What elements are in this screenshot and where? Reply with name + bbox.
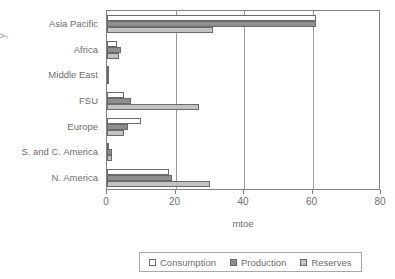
legend-item-consumption[interactable]: Consumption: [149, 257, 216, 268]
bar-group-n-america: [107, 169, 379, 187]
category-label-europe: Europe: [0, 120, 98, 131]
category-label-africa: Africa: [0, 43, 98, 54]
legend-label-reserves: Reserves: [311, 257, 351, 268]
category-label-asia-pacific: Asia Pacific: [0, 17, 98, 28]
x-tick-mark-20: [175, 190, 176, 194]
bar-s-and-c-america-reserves: [107, 155, 112, 161]
category-label-s-and-c-america: S. and C. America: [0, 146, 98, 157]
bar-group-africa: [107, 41, 379, 59]
bar-chart-figure: y Asia PacificAfricaMiddle EastFSUEurope…: [0, 0, 395, 279]
x-tick-mark-60: [312, 190, 313, 194]
bar-africa-reserves: [107, 53, 119, 59]
legend-swatch-production-icon: [230, 259, 237, 266]
bar-middle-east-reserves: [107, 78, 109, 84]
chart-legend: ConsumptionProductionReserves: [139, 252, 362, 272]
legend-label-consumption: Consumption: [160, 257, 216, 268]
x-tick-mark-80: [380, 190, 381, 194]
legend-item-reserves[interactable]: Reserves: [300, 257, 351, 268]
x-tick-mark-40: [243, 190, 244, 194]
bar-europe-reserves: [107, 130, 124, 136]
legend-swatch-reserves-icon: [300, 259, 307, 266]
x-tick-label-20: 20: [169, 196, 180, 207]
bar-group-europe: [107, 118, 379, 136]
legend-swatch-consumption-icon: [149, 259, 156, 266]
bar-fsu-reserves: [107, 104, 199, 110]
x-tick-label-40: 40: [237, 196, 248, 207]
category-axis: Asia PacificAfricaMiddle EastFSUEuropeS.…: [0, 10, 103, 190]
bar-group-fsu: [107, 92, 379, 110]
plot-area: [106, 10, 380, 190]
x-axis-title: mtoe: [106, 218, 380, 229]
x-tick-label-80: 80: [374, 196, 385, 207]
category-label-middle-east: Middle East: [0, 69, 98, 80]
legend-label-production: Production: [241, 257, 286, 268]
category-label-n-america: N. America: [0, 172, 98, 183]
x-axis: 020406080: [106, 190, 380, 216]
bar-group-middle-east: [107, 66, 379, 84]
bar-group-asia-pacific: [107, 15, 379, 33]
bar-asia-pacific-reserves: [107, 27, 213, 33]
x-tick-mark-0: [106, 190, 107, 194]
bar-group-s-and-c-america: [107, 143, 379, 161]
category-label-fsu: FSU: [0, 95, 98, 106]
legend-item-production[interactable]: Production: [230, 257, 286, 268]
bar-n-america-reserves: [107, 181, 210, 187]
x-tick-label-0: 0: [103, 196, 109, 207]
x-tick-label-60: 60: [306, 196, 317, 207]
